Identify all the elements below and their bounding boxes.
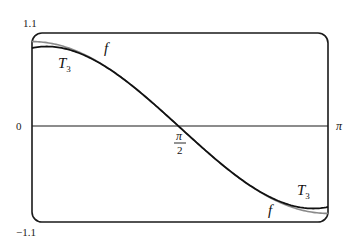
label-f-lower: f xyxy=(268,202,274,218)
x-tick-half-pi-numerator: π xyxy=(176,129,183,143)
x-tick-pi: π xyxy=(336,119,343,133)
y-tick-bottom: −1.1 xyxy=(16,226,36,238)
x-tick-half-pi-denominator: 2 xyxy=(177,144,183,156)
label-f-upper: f xyxy=(104,40,110,56)
label-t3-upper: T3 xyxy=(58,55,71,74)
y-tick-top: 1.1 xyxy=(23,17,37,29)
chart: 1.1 0 −1.1 π π 2 f T3 f T3 xyxy=(0,0,360,250)
y-tick-zero: 0 xyxy=(16,120,22,132)
label-t3-lower: T3 xyxy=(297,182,310,201)
series-t3-line xyxy=(32,47,328,209)
